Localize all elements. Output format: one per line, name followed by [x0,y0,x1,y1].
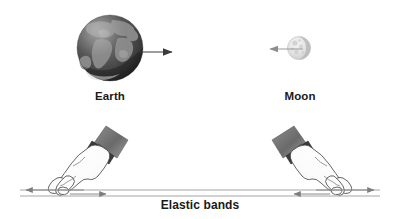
right-hand [272,126,352,196]
diagram-svg [0,0,400,219]
moon-body [288,37,311,60]
earth-body [77,15,143,81]
left-hand [48,126,128,196]
elastic-bands-label: Elastic bands [100,198,300,212]
earth-label: Earth [0,90,220,102]
figure-canvas: Earth Moon Elastic bands [0,0,400,219]
moon-label: Moon [240,90,360,102]
